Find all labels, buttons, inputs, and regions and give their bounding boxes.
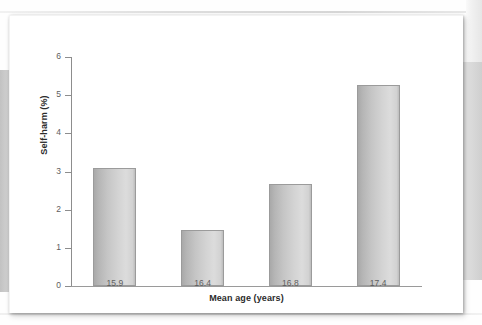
y-tick-4: 4 (65, 133, 71, 134)
bar-15.9 (93, 168, 136, 286)
page-right-gray-band (462, 62, 482, 280)
y-tick-label: 5 (56, 89, 61, 100)
y-axis-title: Self-harm (%) (39, 65, 49, 185)
x-tick-label-15.9: 15.9 (107, 278, 124, 288)
y-tick-label: 2 (56, 204, 61, 215)
bar-16.8 (269, 184, 312, 286)
y-tick-mark (65, 95, 71, 96)
y-tick-2: 2 (65, 210, 71, 211)
bar-17.4 (357, 85, 400, 286)
y-tick-6: 6 (65, 57, 71, 58)
y-tick-0: 0 (65, 286, 71, 287)
x-tick-label-17.4: 17.4 (370, 278, 387, 288)
y-tick-mark (65, 248, 71, 249)
y-tick-3: 3 (65, 172, 71, 173)
x-tick-label-16.4: 16.4 (194, 278, 211, 288)
bar-chart-plot-area: 0123456 15.916.416.817.4 Mean age (years… (10, 16, 463, 313)
y-tick-mark (65, 210, 71, 211)
y-tick-mark (65, 57, 71, 58)
y-tick-mark (65, 133, 71, 134)
y-tick-label: 1 (56, 242, 61, 253)
y-tick-mark (65, 172, 71, 173)
x-axis-title: Mean age (years) (71, 293, 422, 303)
y-tick-5: 5 (65, 95, 71, 96)
page-top-edge-shadow (0, 11, 482, 13)
page-top-right-gray-band (466, 0, 482, 62)
y-tick-label: 4 (56, 127, 61, 138)
y-tick-label: 6 (56, 51, 61, 62)
y-axis-line (71, 57, 72, 287)
y-tick-label: 3 (56, 166, 61, 177)
y-tick-mark (65, 286, 71, 287)
y-tick-label: 0 (56, 280, 61, 291)
figure-card: 0123456 15.916.416.817.4 Mean age (years… (9, 15, 463, 313)
x-tick-label-16.8: 16.8 (282, 278, 299, 288)
page-bottom-edge-shadow (0, 313, 482, 315)
y-tick-1: 1 (65, 248, 71, 249)
